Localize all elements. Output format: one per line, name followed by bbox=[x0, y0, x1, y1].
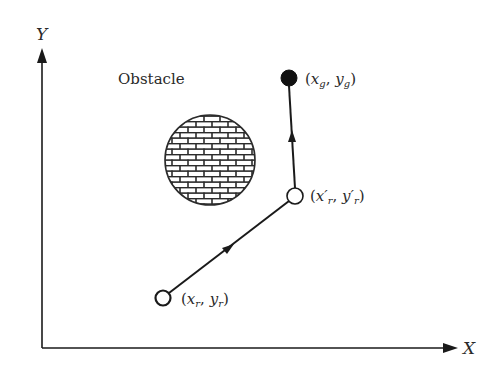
x-axis-arrow-icon bbox=[443, 343, 458, 353]
x-axis bbox=[42, 343, 458, 353]
path-planning-diagram: Y X Obstacle (xr, yr) (x′r, y′r) (xg, yg… bbox=[0, 0, 504, 369]
waypoint-point bbox=[287, 188, 303, 204]
start-label: (xr, yr) bbox=[181, 290, 229, 309]
y-axis-label: Y bbox=[36, 24, 49, 44]
x-axis-label: X bbox=[461, 338, 476, 358]
obstacle bbox=[160, 110, 260, 210]
waypoint-label: (x′r, y′r) bbox=[310, 187, 365, 206]
direction-arrow-icon bbox=[288, 130, 296, 142]
start-point bbox=[156, 291, 171, 306]
goal-label: (xg, yg) bbox=[305, 70, 356, 89]
obstacle-label: Obstacle bbox=[118, 70, 185, 88]
y-axis-arrow-icon bbox=[37, 48, 47, 63]
goal-point bbox=[281, 70, 297, 86]
direction-arrow-icon bbox=[222, 244, 234, 254]
y-axis bbox=[37, 48, 47, 348]
